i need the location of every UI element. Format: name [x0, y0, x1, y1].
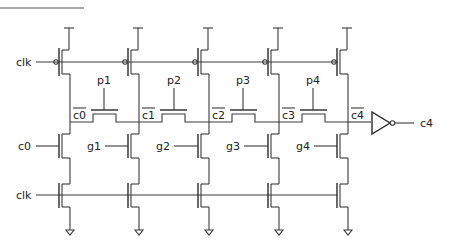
ground-icon — [275, 230, 283, 235]
pmos-col-0 — [54, 28, 74, 122]
ground-icon — [344, 230, 352, 235]
nmos-g1 — [105, 122, 139, 184]
pmos-col-2 — [193, 28, 213, 122]
pmos-col-4 — [332, 28, 352, 122]
c4-output-label: c4 — [420, 117, 433, 130]
p3-label: p3 — [236, 74, 250, 87]
p4-label: p4 — [306, 74, 320, 87]
g4-label: g4 — [296, 140, 310, 153]
ground-icon — [66, 230, 74, 235]
nmos-eval-1 — [128, 183, 143, 235]
p2-label: p2 — [167, 74, 181, 87]
nmos-g4 — [314, 122, 348, 184]
ground-icon — [205, 230, 213, 235]
c0-input-label: c0 — [18, 140, 31, 153]
svg-text:c4: c4 — [351, 109, 364, 122]
svg-text:c2: c2 — [212, 109, 225, 122]
g3-label: g3 — [226, 140, 240, 153]
c4-bar-label: c4 — [351, 108, 364, 122]
c1-bar-label: c1 — [142, 108, 155, 122]
pmos-col-3 — [263, 28, 283, 122]
clk-top-label: clk — [16, 56, 32, 69]
nmos-cin — [36, 122, 70, 184]
nmos-eval-4 — [337, 183, 352, 235]
svg-text:c0: c0 — [73, 109, 86, 122]
svg-text:c1: c1 — [142, 109, 155, 122]
pmos-col-1 — [123, 28, 143, 122]
g1-label: g1 — [87, 140, 101, 153]
c3-bar-label: c3 — [282, 108, 295, 122]
c2-bar-label: c2 — [212, 108, 225, 122]
nmos-eval-2 — [198, 183, 213, 235]
clk-bottom-label: clk — [16, 189, 32, 202]
manchester-carry-chain-diagram: clk — [0, 0, 450, 251]
ground-icon — [135, 230, 143, 235]
svg-text:c3: c3 — [282, 109, 295, 122]
g2-label: g2 — [156, 140, 170, 153]
p1-label: p1 — [97, 74, 111, 87]
nmos-eval-3 — [268, 183, 283, 235]
inverter-icon — [372, 112, 395, 134]
nmos-g2 — [174, 122, 209, 184]
nmos-g3 — [244, 122, 279, 184]
nmos-eval-0 — [59, 183, 74, 235]
c0-bar-label: c0 — [73, 108, 86, 122]
